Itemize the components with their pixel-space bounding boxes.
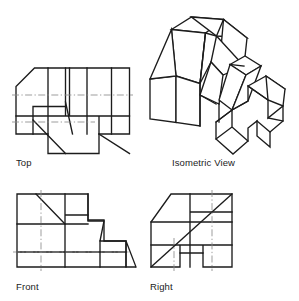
front-view-label: Front [16,281,39,292]
front-view-outer-profile [17,194,136,267]
iso-leg-left [216,110,248,141]
drawing-sheet: Top [0,0,299,301]
iso-left-shoulder-face [150,30,176,80]
top-view-internal-lines [16,68,130,134]
front-view-step-profile [88,194,136,267]
isometric-view-group: Isometric View [150,17,285,168]
iso-left-lower-front-face [150,76,176,123]
front-view-group: Front [13,190,136,292]
right-view-label: Right [150,281,173,292]
top-view-group: Top [12,68,133,168]
multiview-drawing-canvas: Top [0,0,299,301]
isometric-view-label: Isometric View [172,157,235,168]
top-view-label: Top [16,157,32,168]
front-view-inclined-edge [36,194,65,224]
right-view-group: Right [150,190,232,292]
iso-base-right-face [266,76,285,106]
iso-left-lower-right-face [176,76,200,126]
front-view-internal-lines [17,194,126,267]
